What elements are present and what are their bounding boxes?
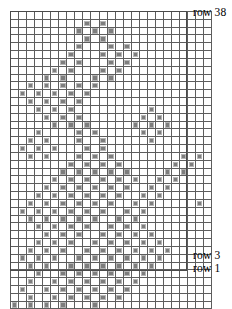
empty-cell[interactable] [19, 199, 27, 207]
empty-cell[interactable] [131, 98, 139, 106]
empty-cell[interactable] [67, 145, 75, 153]
empty-cell[interactable] [27, 90, 35, 98]
empty-cell[interactable] [11, 262, 19, 270]
empty-cell[interactable] [131, 254, 139, 262]
empty-cell[interactable] [107, 19, 115, 27]
filled-cell[interactable] [83, 121, 91, 129]
filled-cell[interactable] [27, 293, 35, 301]
empty-cell[interactable] [123, 12, 131, 20]
empty-cell[interactable] [35, 184, 43, 192]
empty-cell[interactable] [35, 98, 43, 106]
empty-cell[interactable] [67, 231, 75, 239]
filled-cell[interactable] [67, 66, 75, 74]
empty-cell[interactable] [83, 152, 91, 160]
empty-cell[interactable] [179, 98, 187, 106]
empty-cell[interactable] [179, 278, 187, 286]
empty-cell[interactable] [139, 43, 147, 51]
empty-cell[interactable] [75, 160, 83, 168]
empty-cell[interactable] [155, 27, 163, 35]
empty-cell[interactable] [19, 231, 27, 239]
empty-cell[interactable] [131, 223, 139, 231]
empty-cell[interactable] [115, 184, 123, 192]
empty-cell[interactable] [43, 27, 51, 35]
empty-cell[interactable] [179, 145, 187, 153]
empty-cell[interactable] [43, 145, 51, 153]
empty-cell[interactable] [196, 145, 204, 153]
empty-cell[interactable] [179, 192, 187, 200]
filled-cell[interactable] [51, 293, 59, 301]
empty-cell[interactable] [43, 90, 51, 98]
empty-cell[interactable] [67, 74, 75, 82]
empty-cell[interactable] [19, 246, 27, 254]
empty-cell[interactable] [67, 113, 75, 121]
empty-cell[interactable] [179, 113, 187, 121]
empty-cell[interactable] [27, 19, 35, 27]
empty-cell[interactable] [59, 12, 67, 20]
empty-cell[interactable] [115, 270, 123, 278]
empty-cell[interactable] [171, 231, 179, 239]
empty-cell[interactable] [59, 192, 67, 200]
empty-cell[interactable] [43, 105, 51, 113]
empty-cell[interactable] [115, 129, 123, 137]
empty-cell[interactable] [43, 12, 51, 20]
filled-cell[interactable] [91, 301, 99, 309]
filled-cell[interactable] [43, 137, 51, 145]
empty-cell[interactable] [147, 270, 155, 278]
filled-cell[interactable] [83, 207, 91, 215]
empty-cell[interactable] [131, 145, 139, 153]
empty-cell[interactable] [43, 51, 51, 59]
empty-cell[interactable] [11, 239, 19, 247]
empty-cell[interactable] [171, 145, 179, 153]
filled-cell[interactable] [91, 168, 99, 176]
filled-cell[interactable] [67, 160, 75, 168]
empty-cell[interactable] [171, 285, 179, 293]
empty-cell[interactable] [123, 246, 131, 254]
empty-cell[interactable] [91, 278, 99, 286]
empty-cell[interactable] [99, 43, 107, 51]
empty-cell[interactable] [75, 223, 83, 231]
empty-cell[interactable] [204, 90, 212, 98]
filled-cell[interactable] [123, 223, 131, 231]
filled-cell[interactable] [83, 35, 91, 43]
empty-cell[interactable] [147, 285, 155, 293]
filled-cell[interactable] [99, 207, 107, 215]
empty-cell[interactable] [75, 51, 83, 59]
empty-cell[interactable] [27, 192, 35, 200]
empty-cell[interactable] [131, 207, 139, 215]
empty-cell[interactable] [147, 19, 155, 27]
filled-cell[interactable] [107, 152, 115, 160]
empty-cell[interactable] [179, 223, 187, 231]
empty-cell[interactable] [204, 137, 212, 145]
empty-cell[interactable] [27, 184, 35, 192]
filled-cell[interactable] [107, 270, 115, 278]
filled-cell[interactable] [147, 246, 155, 254]
empty-cell[interactable] [188, 168, 196, 176]
empty-cell[interactable] [67, 168, 75, 176]
empty-cell[interactable] [67, 246, 75, 254]
filled-cell[interactable] [163, 246, 171, 254]
filled-cell[interactable] [19, 145, 27, 153]
empty-cell[interactable] [147, 113, 155, 121]
filled-cell[interactable] [196, 199, 204, 207]
filled-cell[interactable] [75, 129, 83, 137]
empty-cell[interactable] [75, 66, 83, 74]
filled-cell[interactable] [107, 43, 115, 51]
empty-cell[interactable] [51, 82, 59, 90]
empty-cell[interactable] [19, 168, 27, 176]
empty-cell[interactable] [155, 207, 163, 215]
empty-cell[interactable] [67, 82, 75, 90]
filled-cell[interactable] [27, 82, 35, 90]
empty-cell[interactable] [188, 176, 196, 184]
empty-cell[interactable] [179, 51, 187, 59]
empty-cell[interactable] [123, 192, 131, 200]
empty-cell[interactable] [204, 192, 212, 200]
empty-cell[interactable] [27, 160, 35, 168]
empty-cell[interactable] [171, 27, 179, 35]
empty-cell[interactable] [171, 121, 179, 129]
filled-cell[interactable] [43, 152, 51, 160]
empty-cell[interactable] [115, 35, 123, 43]
empty-cell[interactable] [43, 192, 51, 200]
empty-cell[interactable] [59, 160, 67, 168]
filled-cell[interactable] [51, 223, 59, 231]
empty-cell[interactable] [139, 82, 147, 90]
